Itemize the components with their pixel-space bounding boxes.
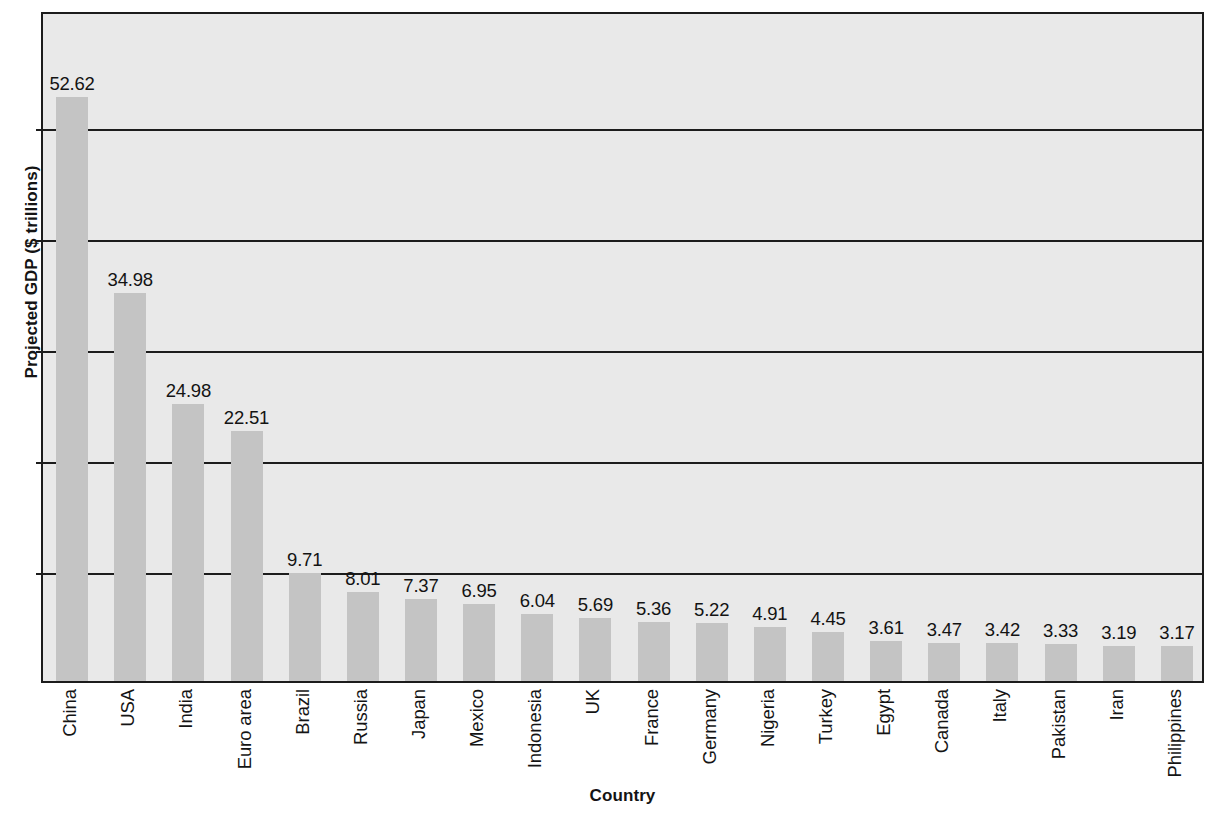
x-axis-label: Russia: [350, 689, 372, 745]
bar-value-label: 5.36: [636, 598, 671, 620]
x-axis-label: Nigeria: [757, 689, 779, 747]
x-axis-label-slot: Mexico: [448, 683, 506, 798]
x-axis-label-slot: USA: [99, 683, 157, 798]
x-axis-label: Euro area: [234, 689, 256, 769]
bar-value-label: 3.61: [869, 617, 904, 639]
bar-group: 52.62: [43, 14, 101, 681]
x-axis-label: USA: [117, 689, 139, 727]
bar[interactable]: [463, 604, 495, 681]
x-axis-label: Canada: [931, 689, 953, 753]
bar-value-label: 4.91: [752, 603, 787, 625]
bar-group: 7.37: [392, 14, 450, 681]
bar-value-label: 3.19: [1101, 622, 1136, 644]
bar-group: 3.42: [973, 14, 1031, 681]
x-axis-label-slot: Indonesia: [506, 683, 564, 798]
x-axis-label-slot: Germany: [681, 683, 739, 798]
bars-layer: 52.6234.9824.9822.519.718.017.376.956.04…: [43, 14, 1202, 681]
plot-area: 52.6234.9824.9822.519.718.017.376.956.04…: [41, 12, 1204, 683]
bar-value-label: 3.17: [1159, 622, 1194, 644]
x-axis-label-slot: Euro area: [215, 683, 273, 798]
x-axis-label-slot: Brazil: [274, 683, 332, 798]
x-axis-label: Iran: [1106, 689, 1128, 720]
bar[interactable]: [56, 97, 88, 681]
y-axis-title: Projected GDP ($ trillions): [22, 0, 42, 552]
bar-group: 4.91: [741, 14, 799, 681]
bar-group: 6.04: [508, 14, 566, 681]
x-axis-label: France: [641, 689, 663, 746]
bar-value-label: 4.45: [810, 608, 845, 630]
bar-value-label: 8.01: [345, 568, 380, 590]
x-axis-label: Germany: [699, 689, 721, 764]
x-axis-label: China: [59, 689, 81, 737]
bar[interactable]: [521, 614, 553, 681]
bar-value-label: 24.98: [166, 380, 211, 402]
bar-group: 3.47: [915, 14, 973, 681]
bar-group: 6.95: [450, 14, 508, 681]
bar[interactable]: [1103, 646, 1135, 681]
x-axis-label-slot: Russia: [332, 683, 390, 798]
bar-group: 5.22: [683, 14, 741, 681]
bar-value-label: 7.37: [403, 575, 438, 597]
bar[interactable]: [812, 632, 844, 681]
x-axis-label-slot: UK: [564, 683, 622, 798]
bar-group: 3.33: [1032, 14, 1090, 681]
x-axis-labels: ChinaUSAIndiaEuro areaBrazilRussiaJapanM…: [41, 683, 1204, 798]
x-axis-label: Philippines: [1164, 689, 1186, 777]
x-axis-label-slot: Japan: [390, 683, 448, 798]
x-axis-label-slot: Iran: [1088, 683, 1146, 798]
x-axis-label: Turkey: [815, 689, 837, 744]
bar-group: 5.36: [625, 14, 683, 681]
bar-group: 8.01: [334, 14, 392, 681]
bar-group: 3.19: [1090, 14, 1148, 681]
bar-group: 22.51: [217, 14, 275, 681]
x-axis-label: Brazil: [292, 689, 314, 735]
bar-value-label: 5.22: [694, 599, 729, 621]
bar[interactable]: [928, 643, 960, 681]
bar-group: 24.98: [159, 14, 217, 681]
x-axis-label-slot: Egypt: [855, 683, 913, 798]
x-axis-label: Egypt: [873, 689, 895, 736]
bar-group: 9.71: [276, 14, 334, 681]
bar[interactable]: [289, 573, 321, 681]
x-axis-label-slot: France: [623, 683, 681, 798]
x-axis-label: India: [175, 689, 197, 729]
x-axis-label-slot: Nigeria: [739, 683, 797, 798]
bar-value-label: 3.42: [985, 619, 1020, 641]
bar[interactable]: [347, 592, 379, 681]
bar[interactable]: [638, 622, 670, 681]
bar-value-label: 34.98: [108, 269, 153, 291]
bar[interactable]: [696, 623, 728, 681]
bar[interactable]: [231, 431, 263, 681]
bar-value-label: 3.47: [927, 619, 962, 641]
bar-value-label: 3.33: [1043, 620, 1078, 642]
bar-group: 5.69: [566, 14, 624, 681]
x-axis-label: Japan: [408, 689, 430, 739]
bar-group: 3.17: [1148, 14, 1206, 681]
bar[interactable]: [579, 618, 611, 681]
bar-value-label: 52.62: [49, 73, 94, 95]
bar-group: 34.98: [101, 14, 159, 681]
bar[interactable]: [172, 404, 204, 681]
bar[interactable]: [986, 643, 1018, 681]
x-axis-label-slot: Canada: [913, 683, 971, 798]
bar[interactable]: [114, 293, 146, 681]
bar[interactable]: [870, 641, 902, 681]
x-axis-label-slot: Philippines: [1146, 683, 1204, 798]
gdp-bar-chart: Projected GDP ($ trillions) 52.6234.9824…: [0, 0, 1213, 827]
x-axis-label-slot: Pakistan: [1030, 683, 1088, 798]
x-axis-label: Italy: [989, 689, 1011, 722]
bar[interactable]: [754, 627, 786, 681]
x-axis-label: Mexico: [466, 689, 488, 747]
x-axis-label: Indonesia: [524, 689, 546, 768]
bar-group: 4.45: [799, 14, 857, 681]
bar[interactable]: [1161, 646, 1193, 681]
x-axis-label: Pakistan: [1048, 689, 1070, 759]
bar-group: 3.61: [857, 14, 915, 681]
bar-value-label: 5.69: [578, 594, 613, 616]
x-axis-label-slot: China: [41, 683, 99, 798]
bar-value-label: 9.71: [287, 549, 322, 571]
bar[interactable]: [1045, 644, 1077, 681]
bar-value-label: 6.04: [520, 590, 555, 612]
x-axis-label-slot: Italy: [971, 683, 1029, 798]
bar[interactable]: [405, 599, 437, 681]
